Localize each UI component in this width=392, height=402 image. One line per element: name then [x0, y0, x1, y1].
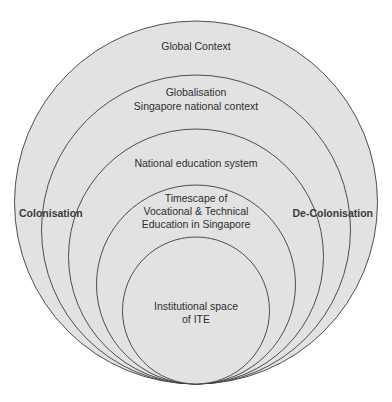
label-institution-line-1: Institutional space	[154, 300, 238, 312]
label-national-line-1: Globalisation	[166, 86, 227, 98]
nested-context-diagram: Global ContextGlobalisationSingapore nat…	[0, 0, 392, 402]
label-education-line-1: National education system	[134, 157, 257, 169]
label-timescape-line-3: Education in Singapore	[142, 218, 251, 230]
de-colonisation-label: De-Colonisation	[293, 207, 374, 219]
label-timescape-line-2: Vocational & Technical	[144, 205, 249, 217]
colonisation-label: Colonisation	[19, 207, 83, 219]
label-global-line-1: Global Context	[161, 40, 231, 52]
label-timescape-line-1: Timescape of	[165, 192, 228, 204]
label-institution-line-2: of ITE	[182, 313, 210, 325]
label-national-line-2: Singapore national context	[134, 100, 258, 112]
